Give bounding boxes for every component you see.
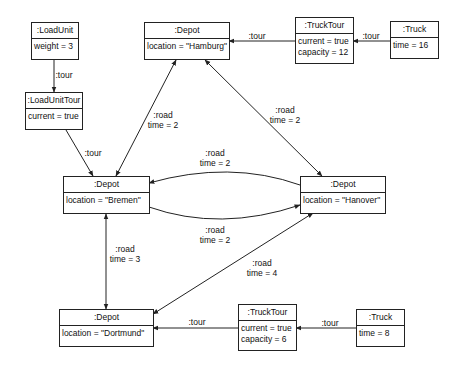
object-attribute: weight = 3 <box>34 41 76 52</box>
link-label-road-hamburg-hanover: :road time = 2 <box>270 105 300 125</box>
object-attribute: time = 8 <box>359 328 402 339</box>
object-diagram-canvas: :LoadUnit weight = 3 :LoadUnitTour curre… <box>0 0 459 371</box>
object-load-unit-tour[interactable]: :LoadUnitTour current = true <box>25 92 83 130</box>
link-label-trucktour-dortmund: :tour <box>188 317 205 327</box>
object-attribute: current = true <box>241 323 294 334</box>
link-label-trucktour-hamburg: :tour <box>248 31 265 41</box>
object-title: :Truck <box>391 22 438 38</box>
object-title: :TruckTour <box>239 305 296 321</box>
object-truck-bottom[interactable]: :Truck time = 8 <box>356 309 405 347</box>
object-title: :TruckTour <box>296 18 353 34</box>
object-attribute: location = "Hamburg" <box>147 41 227 52</box>
object-attribute: current = true <box>28 111 80 122</box>
object-attribute: location = "Dortmund" <box>62 328 151 339</box>
link-label-loadunit-tour: :tour <box>55 70 72 80</box>
object-title: :LoadUnitTour <box>26 93 82 109</box>
object-depot-dortmund[interactable]: :Depot location = "Dortmund" <box>59 309 154 347</box>
object-depot-hamburg[interactable]: :Depot location = "Hamburg" <box>144 22 230 60</box>
object-attribute: location = "Hanover" <box>303 195 383 206</box>
object-title: :Depot <box>301 177 385 193</box>
object-attribute: capacity = 12 <box>298 47 351 58</box>
link-label-road-dortmund-hanover: :road time = 4 <box>247 258 277 278</box>
link-label-road-hanover-bremen-lower: :road time = 2 <box>200 225 230 245</box>
link-label-road-bremen-dortmund: :road time = 3 <box>110 244 140 264</box>
link-road-bremen-hanover-lower <box>149 205 300 219</box>
link-label-road-hamburg-bremen: :road time = 2 <box>148 110 178 130</box>
object-truck-top[interactable]: :Truck time = 16 <box>390 21 439 59</box>
object-depot-hanover[interactable]: :Depot location = "Hanover" <box>300 176 386 214</box>
object-attribute: time = 16 <box>393 40 436 51</box>
object-attribute: capacity = 6 <box>241 334 294 345</box>
object-attribute: current = true <box>298 36 351 47</box>
object-title: :Depot <box>64 177 149 193</box>
link-road-dortmund-hanover <box>153 213 313 314</box>
object-title: :Truck <box>357 310 404 326</box>
object-truck-tour-bottom[interactable]: :TruckTour current = true capacity = 6 <box>238 304 297 351</box>
link-label-truck-trucktour-bottom: :tour <box>321 318 338 328</box>
object-title: :LoadUnit <box>32 23 78 39</box>
link-label-truck-trucktour-top: :tour <box>362 31 379 41</box>
object-load-unit[interactable]: :LoadUnit weight = 3 <box>31 22 79 60</box>
object-truck-tour-top[interactable]: :TruckTour current = true capacity = 12 <box>295 17 354 64</box>
object-depot-bremen[interactable]: :Depot location = "Bremen" <box>63 176 150 214</box>
object-title: :Depot <box>145 23 229 39</box>
link-label-road-bremen-hanover-upper: :road time = 2 <box>200 148 230 168</box>
object-title: :Depot <box>60 310 153 326</box>
link-road-hanover-bremen-upper <box>149 172 300 185</box>
link-label-loadunittour-bremen: :tour <box>84 148 101 158</box>
object-attribute: location = "Bremen" <box>66 195 147 206</box>
